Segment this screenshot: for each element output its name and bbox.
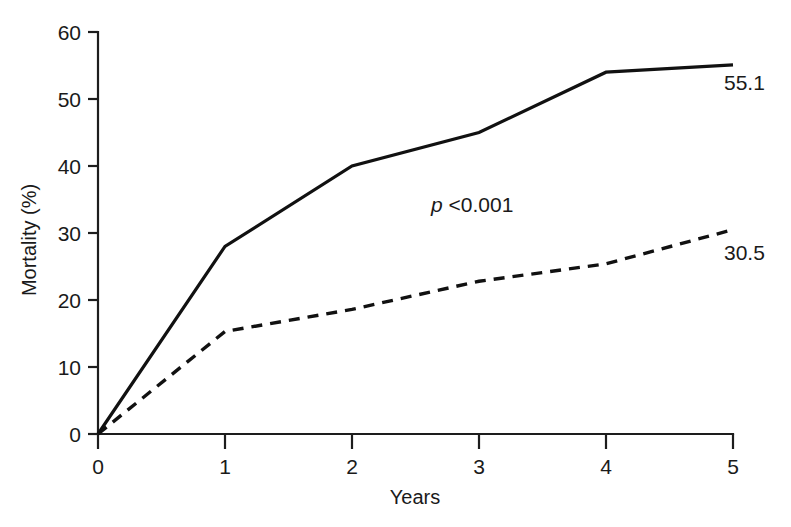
- x-tick-label-5: 5: [727, 455, 739, 478]
- y-tick-label-60: 60: [58, 21, 81, 44]
- y-axis-title: Mortality (%): [18, 184, 40, 296]
- x-tick-label-0: 0: [92, 455, 104, 478]
- y-tick-label-0: 0: [69, 423, 81, 446]
- x-tick-label-3: 3: [473, 455, 485, 478]
- y-tick-label-50: 50: [58, 88, 81, 111]
- x-tick-label-1: 1: [219, 455, 231, 478]
- y-tick-label-30: 30: [58, 222, 81, 245]
- x-tick-label-2: 2: [346, 455, 358, 478]
- x-axis-title: Years: [390, 486, 440, 508]
- y-tick-label-10: 10: [58, 356, 81, 379]
- p-value-threshold: <0.001: [443, 193, 514, 216]
- series-solid-end-label: 55.1: [724, 71, 765, 94]
- p-value-symbol: p: [430, 193, 443, 216]
- x-tick-label-4: 4: [600, 455, 612, 478]
- series-dashed-end-label: 30.5: [724, 241, 765, 264]
- p-value-annotation: p <0.001: [430, 193, 513, 216]
- y-tick-label-40: 40: [58, 155, 81, 178]
- mortality-line-chart: 60 50 40 30 20 10 0 0 1 2 3 4 5 Years: [0, 0, 791, 527]
- chart-background: [0, 0, 791, 527]
- chart-canvas: 60 50 40 30 20 10 0 0 1 2 3 4 5 Years: [0, 0, 791, 527]
- y-tick-label-20: 20: [58, 289, 81, 312]
